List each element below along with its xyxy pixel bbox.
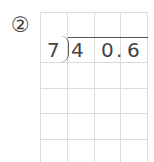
dividend-digit: 4 bbox=[71, 38, 84, 62]
dividend-digit: 6 bbox=[127, 38, 140, 62]
problem-number: ② bbox=[11, 14, 30, 36]
division-bracket bbox=[61, 36, 69, 62]
dividend-digit: 0 bbox=[101, 38, 114, 62]
grid-line bbox=[40, 113, 148, 114]
grid-line bbox=[40, 62, 148, 63]
grid-line bbox=[40, 88, 148, 89]
calculation-grid bbox=[40, 12, 148, 162]
grid-line bbox=[40, 12, 148, 13]
divisor: 7 bbox=[47, 38, 60, 62]
grid-line bbox=[40, 139, 148, 140]
decimal-point: . bbox=[116, 38, 122, 62]
